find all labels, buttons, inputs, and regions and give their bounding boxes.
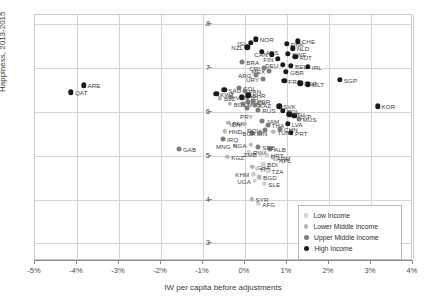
data-point-mex[interactable] — [267, 69, 272, 74]
data-point-label-aut: AUT — [299, 54, 312, 61]
data-point-col[interactable] — [236, 85, 241, 90]
legend-item-lower-middle-income[interactable]: Lower Middle Income — [304, 221, 396, 232]
y-axis-tick-label: 8 — [202, 18, 210, 27]
data-point-ury[interactable] — [261, 77, 266, 82]
x-axis-tick-label: 0% — [239, 266, 250, 275]
gridline-horizontal — [35, 24, 411, 25]
x-axis-tick-label: 4% — [407, 266, 418, 275]
x-axis-tick — [202, 260, 203, 264]
x-axis-tick-label: -5% — [27, 266, 40, 275]
y-axis-tick-label: 6 — [202, 106, 210, 115]
x-axis-tick — [76, 260, 77, 264]
gridline-vertical — [119, 15, 120, 259]
data-point-bra[interactable] — [240, 60, 245, 65]
y-axis-tick-label: 5 — [202, 150, 210, 159]
data-point-label-idn: IDN — [230, 120, 241, 127]
legend-swatch-upper-middle-income — [304, 235, 309, 240]
legend-item-upper-middle-income[interactable]: Upper Middle Income — [304, 232, 396, 243]
data-point-label-kgz: KGZ — [231, 153, 244, 160]
gridline-vertical — [413, 15, 414, 259]
x-axis-tick — [412, 260, 413, 264]
legend-swatch-high-income — [304, 246, 309, 251]
data-point-label-bgr: BGR — [242, 130, 256, 137]
data-point-label-afg: AFG — [262, 200, 275, 207]
data-point-label-uga: UGA — [237, 177, 251, 184]
x-axis-tick — [370, 260, 371, 264]
x-axis-tick-label: -2% — [153, 266, 166, 275]
x-axis-tick-label: -3% — [111, 266, 124, 275]
x-axis-tick — [286, 260, 287, 264]
data-point-label-ury: URY — [246, 76, 259, 83]
gridline-vertical — [77, 15, 78, 259]
data-point-label-mus: MUS — [303, 115, 317, 122]
data-point-cri[interactable] — [262, 65, 267, 70]
data-point-label-qat: QAT — [75, 89, 88, 96]
data-point-label-gab: GAB — [183, 146, 196, 153]
x-axis-tick — [118, 260, 119, 264]
data-point-label-irl: IRL — [312, 63, 322, 70]
x-axis-tick — [328, 260, 329, 264]
data-point-label-sle: SLE — [268, 180, 280, 187]
data-point-label-lva: LVA — [292, 120, 303, 127]
legend-swatch-lower-middle-income — [304, 224, 308, 228]
scatter-chart: IW per capita before adjustments Happine… — [0, 0, 428, 304]
data-point-label-bdi: BDI — [267, 161, 278, 168]
x-axis-tick-label: 1% — [281, 266, 292, 275]
legend-label-upper-middle-income: Upper Middle Income — [314, 234, 379, 241]
data-point-label-zmb: ZMB — [243, 150, 256, 157]
gridline-horizontal — [35, 200, 411, 201]
x-axis-title: IW per capita before adjustments — [34, 283, 412, 292]
y-axis-tick-label: 3 — [202, 238, 210, 247]
data-point-irq[interactable] — [221, 137, 226, 142]
x-axis-line — [34, 260, 412, 261]
x-axis-tick — [34, 260, 35, 264]
data-point-label-prt: PRT — [295, 129, 308, 136]
legend-label-lower-middle-income: Lower Middle Income — [313, 223, 378, 230]
gridline-vertical — [245, 15, 246, 259]
data-point-label-hrt: HRT — [271, 152, 284, 159]
y-axis-title: Happiness, 2013-2015 — [0, 11, 7, 92]
x-axis-tick-label: 3% — [365, 266, 376, 275]
data-point-tha[interactable] — [265, 122, 270, 127]
data-point-label-nor: NOR — [260, 36, 274, 43]
data-point-label-gbr: GBR — [290, 68, 304, 75]
gridline-vertical — [161, 15, 162, 259]
data-point-label-nzl: NZL — [231, 44, 243, 51]
data-point-label-hnd: HND — [229, 128, 243, 135]
gridline-horizontal — [35, 156, 411, 157]
data-point-srb[interactable] — [256, 144, 261, 149]
data-point-label-bra: BRA — [246, 59, 259, 66]
x-axis-tick — [160, 260, 161, 264]
gridline-horizontal — [35, 112, 411, 113]
data-point-mys[interactable] — [241, 101, 246, 106]
data-point-label-srb: SRB — [262, 143, 275, 150]
data-point-label-deu: DEU — [265, 61, 278, 68]
legend-item-low-income[interactable]: Low Income — [304, 210, 396, 221]
legend: Low Income Lower Middle Income Upper Mid… — [298, 205, 402, 260]
data-point-rus[interactable] — [256, 107, 261, 112]
data-point-label-mng: MNG — [216, 142, 231, 149]
gridline-vertical — [203, 15, 204, 259]
legend-label-low-income: Low Income — [313, 212, 350, 219]
data-point-label-mlt: MLT — [312, 81, 324, 88]
data-point-label-kor: KOR — [382, 103, 396, 110]
x-axis-tick-label: -1% — [195, 266, 208, 275]
y-axis-tick-label: 7 — [202, 62, 210, 71]
legend-label-high-income: High Income — [314, 245, 352, 252]
data-point-rou[interactable] — [263, 127, 268, 132]
x-axis-tick-label: -4% — [69, 266, 82, 275]
legend-item-high-income[interactable]: High Income — [304, 243, 396, 254]
data-point-gab[interactable] — [176, 147, 181, 152]
gridline-horizontal — [35, 68, 411, 69]
data-point-label-tun: TUN — [277, 128, 290, 135]
x-axis-tick-label: 2% — [323, 266, 334, 275]
y-axis-tick-label: 4 — [202, 194, 210, 203]
data-point-label-are: ARE — [88, 82, 101, 89]
legend-swatch-low-income — [304, 213, 308, 217]
data-point-ven[interactable] — [229, 95, 234, 100]
data-point-bgr[interactable] — [257, 131, 262, 136]
data-point-label-rus: RUS — [262, 106, 275, 113]
data-point-label-nga: NGA — [233, 141, 247, 148]
x-axis-tick — [244, 260, 245, 264]
data-point-label-sgp: SGP — [344, 76, 357, 83]
